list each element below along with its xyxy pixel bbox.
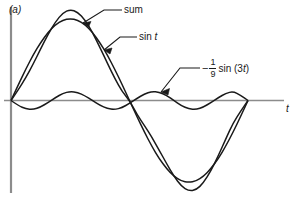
fraction-denominator: 9 <box>209 69 216 79</box>
fraction-numerator: 1 <box>209 58 216 68</box>
leader-harmonic <box>161 68 200 95</box>
annotation-sin-t-fn: sin <box>139 31 152 42</box>
leader-sum <box>83 10 122 27</box>
leader-sin-t <box>104 37 137 54</box>
annotation-harmonic-close: ) <box>246 64 249 74</box>
x-axis-label: t <box>286 104 289 114</box>
panel-label: (a) <box>9 5 21 15</box>
annotation-harmonic-sign: − <box>202 63 209 74</box>
fraction-one-ninth: 19 <box>209 58 216 79</box>
annotation-sin-t: sin t <box>139 32 157 42</box>
annotation-harmonic-fn: sin (3 <box>218 64 242 74</box>
figure-panel-a: (a) sum sin t −19sin (3t) t <box>0 0 299 201</box>
annotation-minus-ninth-sin-3t: −19sin (3t) <box>202 58 249 79</box>
annotation-sum: sum <box>124 5 143 15</box>
annotation-sin-t-var: t <box>155 31 158 42</box>
